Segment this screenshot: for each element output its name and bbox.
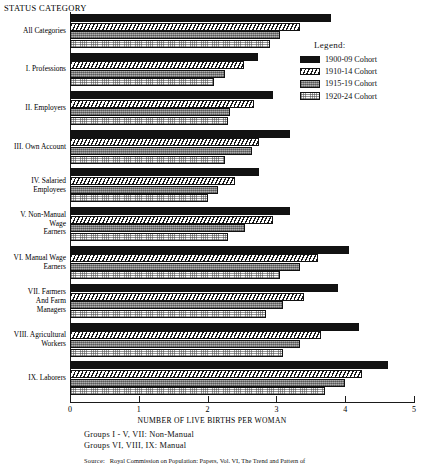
category-label: V. Non-ManualWageEarners <box>0 211 66 237</box>
bar-group: VIII. AgriculturalWorkers <box>0 323 424 357</box>
bar-solid <box>70 168 259 176</box>
x-tick <box>139 396 140 403</box>
bar-dots <box>70 349 283 357</box>
x-tick <box>345 396 346 403</box>
legend-swatch-dots <box>300 92 320 100</box>
bar-gray <box>70 224 245 232</box>
category-label: VII. FarmersAnd FarmManagers <box>0 288 66 314</box>
bar-gray <box>70 147 252 155</box>
x-tick <box>276 396 277 403</box>
chart-footer: Groups I - V, VII: Non-Manual Groups VI,… <box>0 430 424 465</box>
category-label: II. Employers <box>0 104 66 113</box>
bar-hatch <box>70 331 321 339</box>
bar-group: V. Non-ManualWageEarners <box>0 207 424 241</box>
bar-hatch <box>70 138 259 146</box>
bar-dots <box>70 233 228 241</box>
legend-label: 1900-09 Cohort <box>325 55 377 64</box>
bar-solid <box>70 53 258 61</box>
category-label-line: II. Employers <box>0 104 66 113</box>
x-tick <box>208 396 209 403</box>
bar-gray <box>70 301 283 309</box>
bar-hatch <box>70 370 362 378</box>
bar-gray <box>70 379 345 387</box>
category-label: VI. Manual WageEarners <box>0 254 66 271</box>
bar-gray <box>70 31 280 39</box>
legend-item: 1900-09 Cohort <box>300 55 420 64</box>
footnote-line-2: Groups VI, VIII, IX: Manual <box>84 441 424 452</box>
bar-gray <box>70 70 225 78</box>
category-label: III. Own Account <box>0 143 66 152</box>
category-label-line: Workers <box>0 340 66 349</box>
bar-solid <box>70 14 331 22</box>
legend-item: 1915-19 Cohort <box>300 79 420 88</box>
bar-dots <box>70 117 228 125</box>
bar-dots <box>70 310 266 318</box>
bar-group: III. Own Account <box>0 130 424 164</box>
legend-title: Legend: <box>314 40 420 50</box>
bar-dots <box>70 156 225 164</box>
bar-gray <box>70 340 300 348</box>
x-tick-label: 0 <box>68 405 72 414</box>
legend-label: 1910-14 Cohort <box>325 67 377 76</box>
source-text: Royal Commission on Population: Papers, … <box>110 457 306 464</box>
category-label-line: Earners <box>0 263 66 272</box>
category-label-line: I. Professions <box>0 65 66 74</box>
bar-group: IX. Laborers <box>0 361 424 395</box>
legend-label: 1915-19 Cohort <box>325 79 377 88</box>
category-label-line: Earners <box>0 228 66 237</box>
y-axis-title: STATUS CATEGORY <box>4 3 87 13</box>
x-tick-label: 1 <box>137 405 141 414</box>
bar-group: IV. SalariedEmployees <box>0 168 424 202</box>
bar-dots <box>70 194 208 202</box>
category-label: IV. SalariedEmployees <box>0 177 66 194</box>
bar-group: VII. FarmersAnd FarmManagers <box>0 284 424 318</box>
bar-dots <box>70 387 325 395</box>
category-label-line: III. Own Account <box>0 143 66 152</box>
category-label: IX. Laborers <box>0 374 66 383</box>
source-label: Source: <box>84 457 105 464</box>
x-tick <box>414 396 415 403</box>
x-tick-label: 2 <box>206 405 210 414</box>
bar-solid <box>70 207 290 215</box>
bar-hatch <box>70 177 235 185</box>
x-tick <box>70 396 71 403</box>
bar-dots <box>70 78 214 86</box>
bar-solid <box>70 246 349 254</box>
x-axis-label: NUMBER OF LIVE BIRTHS PER WOMAN <box>0 416 424 425</box>
legend-swatch-gray <box>300 80 320 88</box>
bar-dots <box>70 40 270 48</box>
bar-hatch <box>70 216 273 224</box>
category-label: I. Professions <box>0 65 66 74</box>
x-tick-label: 5 <box>412 405 416 414</box>
category-label: All Categories <box>0 27 66 36</box>
bar-gray <box>70 108 230 116</box>
bar-hatch <box>70 23 300 31</box>
bar-hatch <box>70 61 244 69</box>
legend-label: 1920-24 Cohort <box>325 92 377 101</box>
x-tick-label: 4 <box>343 405 347 414</box>
bar-dots <box>70 271 280 279</box>
bar-solid <box>70 361 388 369</box>
category-label-line: All Categories <box>0 27 66 36</box>
legend-item: 1910-14 Cohort <box>300 67 420 76</box>
footnote-line-1: Groups I - V, VII: Non-Manual <box>84 430 424 441</box>
bar-gray <box>70 186 218 194</box>
bar-gray <box>70 263 300 271</box>
bar-hatch <box>70 293 304 301</box>
bar-hatch <box>70 100 254 108</box>
bar-solid <box>70 91 273 99</box>
category-label-line: Managers <box>0 306 66 315</box>
legend: Legend: 1900-09 Cohort1910-14 Cohort1915… <box>300 40 420 104</box>
legend-item: 1920-24 Cohort <box>300 92 420 101</box>
category-label: VIII. AgriculturalWorkers <box>0 331 66 348</box>
category-label-line: Employees <box>0 186 66 195</box>
x-axis-line <box>70 402 414 403</box>
legend-swatch-hatch <box>300 68 320 76</box>
bar-hatch <box>70 254 318 262</box>
bar-group: VI. Manual WageEarners <box>0 246 424 280</box>
bar-solid <box>70 284 338 292</box>
bar-chart: STATUS CATEGORY 012345 NUMBER OF LIVE BI… <box>0 0 424 475</box>
category-label-line: IX. Laborers <box>0 374 66 383</box>
x-tick-label: 3 <box>274 405 278 414</box>
bar-solid <box>70 323 359 331</box>
